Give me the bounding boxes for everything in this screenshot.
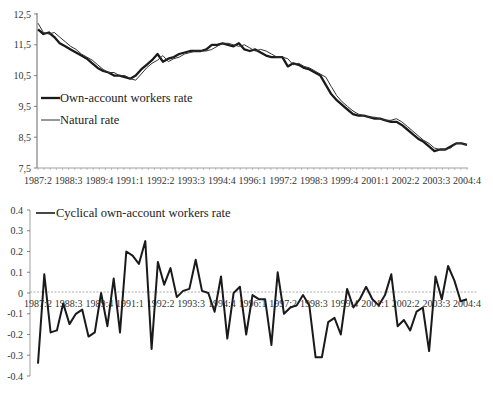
x-tick-label: 1991:1 [116, 175, 144, 186]
y-tick-label: -0.3 [7, 350, 23, 361]
x-tick-label: 1999:4 [331, 175, 359, 186]
y-tick-label: 12,5 [14, 9, 32, 20]
x-tick-label: 2004:4 [453, 175, 481, 186]
x-tick-label: 2002:2 [392, 175, 420, 186]
y-tick-label: 11,5 [14, 39, 31, 50]
chart-canvas: 12,511,510,59,58,57,5 1987:21988:31989:4… [0, 0, 493, 394]
natural-rate-line [38, 23, 467, 149]
top-chart: 12,511,510,59,58,57,5 1987:21988:31989:4… [14, 9, 481, 187]
legend-label-cyclical: Cyclical own-account workers rate [56, 206, 231, 220]
legend-label-own-account: Own-account workers rate [60, 91, 193, 105]
x-tick-label: 1994:4 [208, 175, 236, 186]
bottom-legend: Cyclical own-account workers rate [36, 206, 231, 220]
y-tick-label: 9,5 [19, 101, 32, 112]
x-tick-label: 1997:2 [269, 175, 297, 186]
x-tick-label: 1988:3 [55, 175, 83, 186]
x-tick-label: 1993:3 [177, 298, 205, 309]
x-tick-label: 1998:3 [300, 298, 328, 309]
x-tick-label: 1992:2 [147, 175, 175, 186]
y-tick-label: 0.2 [11, 246, 24, 257]
y-tick-label: 7,5 [19, 163, 32, 174]
y-tick-label: -0.2 [7, 329, 23, 340]
x-tick-label: 2003:3 [422, 175, 450, 186]
x-tick-label: 2001:1 [361, 298, 389, 309]
x-tick-label: 1992:2 [147, 298, 175, 309]
x-tick-label: 1991:1 [116, 298, 144, 309]
y-tick-label: 0.3 [11, 225, 24, 236]
x-tick-label: 2001:1 [361, 175, 389, 186]
y-tick-label: -0.1 [7, 308, 23, 319]
bottom-chart: 0.40.30.20.10-0.1-0.2-0.3-0.4 1987:21988… [7, 205, 481, 382]
x-tick-label: 1988:3 [55, 298, 83, 309]
x-tick-label: 1998:3 [300, 175, 328, 186]
y-tick-label: 8,5 [19, 132, 32, 143]
y-tick-label: 10,5 [14, 70, 32, 81]
top-legend: Own-account workers rate Natural rate [41, 91, 193, 127]
legend-label-natural-rate: Natural rate [60, 113, 120, 127]
y-tick-label: 0.1 [11, 267, 24, 278]
x-tick-label: 1996:1 [239, 175, 267, 186]
y-tick-label: 0 [18, 288, 23, 299]
y-tick-label: -0.4 [7, 371, 23, 382]
y-tick-label: 0.4 [11, 205, 24, 216]
x-tick-label: 1989:4 [85, 175, 113, 186]
x-tick-label: 1987:2 [24, 175, 52, 186]
x-tick-label: 2003:3 [422, 298, 450, 309]
x-tick-label: 1993:3 [177, 175, 205, 186]
